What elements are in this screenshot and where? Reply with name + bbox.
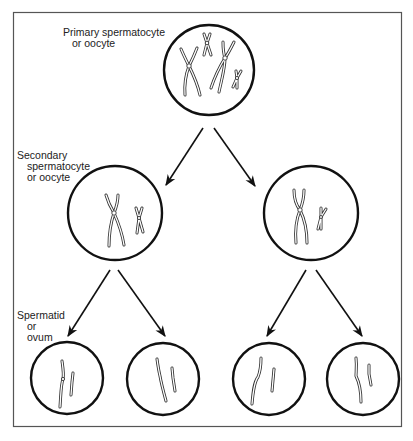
spermatid-cell-4: [327, 343, 399, 415]
chromosome-large: [106, 195, 124, 246]
label-primary: Primary spermatocyte or oocyte: [63, 27, 165, 49]
secondary-right-membrane: [264, 166, 358, 260]
label-primary-line-2: or oocyte: [63, 38, 165, 49]
spermatid-3-membrane: [233, 343, 305, 415]
spermatid-cell-2: [127, 343, 199, 415]
secondary-cell-right: [264, 166, 358, 260]
spermatid-cell-3: [233, 343, 305, 415]
chromosome-small: [318, 208, 326, 229]
chromosome-large-2: [211, 42, 234, 92]
meiosis-diagram: [0, 0, 413, 441]
label-secondary: Secondary spermatocyte or oocyte: [17, 150, 90, 183]
arrow-secondary-left-to-spermatid-1: [68, 270, 110, 336]
chromosome-large: [294, 190, 307, 243]
diagram-frame: [14, 13, 402, 427]
arrow-secondary-right-to-spermatid-3: [267, 270, 306, 336]
spermatid-1-membrane: [31, 342, 103, 414]
spermatid-4-membrane: [327, 343, 399, 415]
label-secondary-line-3: or oocyte: [17, 172, 90, 183]
label-spermatid: Spermatid or ovum: [17, 310, 65, 343]
arrow-secondary-left-to-spermatid-2: [118, 270, 165, 336]
arrow-primary-to-secondary-left: [166, 128, 203, 185]
spermatid-2-membrane: [127, 343, 199, 415]
label-spermatid-line-1: Spermatid: [17, 310, 65, 321]
chromosome-small: [136, 208, 143, 233]
arrow-primary-to-secondary-right: [214, 128, 255, 186]
arrow-secondary-right-to-spermatid-4: [316, 270, 362, 336]
chromosome-small-1: [204, 34, 211, 55]
spermatid-cell-1: [31, 342, 103, 414]
chromosome-small-2: [233, 71, 241, 88]
chromosome-large-1: [181, 48, 200, 95]
primary-cell: [164, 25, 254, 115]
label-spermatid-line-3: ovum: [17, 332, 65, 343]
